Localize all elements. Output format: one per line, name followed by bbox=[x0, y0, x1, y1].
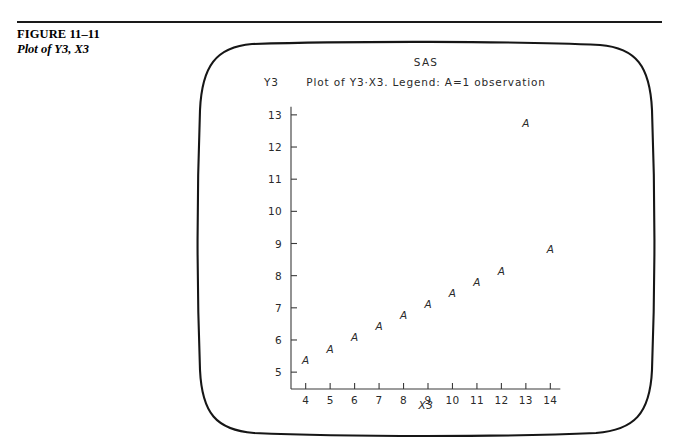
svg-text:7: 7 bbox=[275, 302, 282, 314]
y-axis: 5678910111213 bbox=[268, 107, 297, 389]
svg-text:13: 13 bbox=[268, 109, 282, 121]
svg-text:11: 11 bbox=[268, 173, 282, 185]
figure-title: Plot of Y3, X3 bbox=[17, 42, 197, 57]
data-point-marker: A bbox=[497, 265, 505, 277]
data-point-marker: A bbox=[326, 343, 334, 355]
figure-number: FIGURE 11–11 bbox=[17, 27, 197, 42]
data-point-marker: A bbox=[350, 331, 358, 343]
data-points: AAAAAAAAAAA bbox=[301, 117, 554, 365]
data-point-marker: A bbox=[374, 320, 382, 332]
data-point-marker: A bbox=[546, 243, 554, 255]
figure-caption: FIGURE 11–11 Plot of Y3, X3 bbox=[17, 27, 197, 57]
data-point-marker: A bbox=[472, 276, 480, 288]
data-point-marker: A bbox=[301, 354, 309, 366]
figure-top-rule bbox=[17, 21, 662, 23]
data-point-marker: A bbox=[448, 287, 456, 299]
data-point-marker: A bbox=[423, 298, 431, 310]
svg-text:8: 8 bbox=[275, 270, 282, 282]
svg-text:10: 10 bbox=[268, 205, 282, 217]
crt-monitor: SAS Y3 Plot of Y3·X3. Legend: A=1 observ… bbox=[196, 40, 656, 438]
scatter-plot: 5678910111213 4567891011121314 AAAAAAAAA… bbox=[196, 40, 656, 438]
x-axis-name-label: X3 bbox=[196, 399, 656, 411]
svg-text:6: 6 bbox=[275, 334, 282, 346]
data-point-marker: A bbox=[399, 309, 407, 321]
terminal-screen: SAS Y3 Plot of Y3·X3. Legend: A=1 observ… bbox=[196, 40, 656, 438]
data-point-marker: A bbox=[521, 117, 529, 129]
svg-text:12: 12 bbox=[268, 141, 282, 153]
svg-text:9: 9 bbox=[275, 238, 282, 250]
svg-text:5: 5 bbox=[275, 366, 282, 378]
